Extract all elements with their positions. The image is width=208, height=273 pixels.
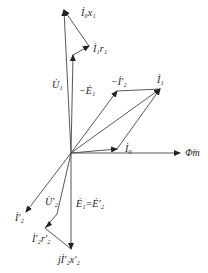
label-phim: Φ̇m	[185, 148, 200, 158]
neg-i2-shift	[117, 89, 160, 149]
i0-shift	[117, 89, 160, 91]
i0-vector	[71, 149, 117, 153]
label-i1r1: İ₁r₁	[93, 44, 107, 54]
label-neg-e1: −Ė₁	[79, 86, 95, 96]
phasor-diagram: İ₀x₁ İ₁r₁ U̇₁ −Ė₁ −İ′₂ İ₁ İ₀ Φ̇m İ′₂ U̇′…	[0, 0, 208, 273]
label-e1-e2: Ė₁=Ė′₂	[76, 199, 104, 209]
label-i2r2: İ′₂r′₂	[32, 234, 51, 244]
u1-vector	[64, 10, 71, 153]
neg-e1-vector	[71, 55, 73, 153]
label-i2: İ′₂	[15, 213, 24, 223]
label-i1: İ₁	[157, 75, 164, 85]
label-u2: U̇′₂	[45, 197, 58, 207]
arrowhead-i2r2	[45, 221, 52, 228]
neg-i2-vector	[71, 91, 117, 153]
label-u1: U̇₁	[52, 80, 63, 90]
label-neg-i2: −İ′₂	[111, 77, 127, 87]
i1-vector	[71, 89, 160, 153]
label-i0: İ₀	[125, 144, 132, 154]
label-i0x1: İ₀x₁	[81, 8, 96, 18]
label-j-i2x2: jİ′₂x′₂	[58, 255, 80, 265]
i1r1-vector	[73, 46, 89, 55]
